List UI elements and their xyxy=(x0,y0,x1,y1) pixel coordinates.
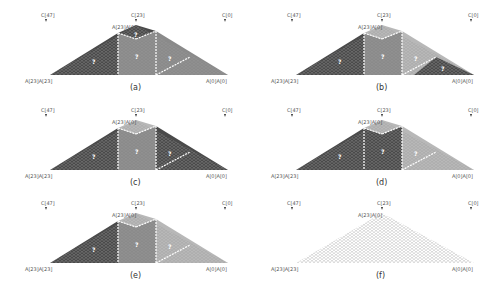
panel-f: C[47]C[23]C[0]A[23]A[0]A[23]A[23]A[0]A[0… xyxy=(246,188,492,282)
panel-c: C[47]C[23]C[0]A[23]A[0]A[23]A[23]A[0]A[0… xyxy=(0,95,246,189)
region-label-center: ? xyxy=(135,54,138,60)
panel-caption: (f) xyxy=(376,272,385,280)
label-apex: A[23]A[0] xyxy=(358,25,382,30)
arrow-down-icon xyxy=(381,19,383,22)
panel-caption: (a) xyxy=(130,84,141,92)
panel-caption: (c) xyxy=(130,179,141,187)
region-label-center: ? xyxy=(135,149,138,155)
arrow-down-icon xyxy=(45,207,47,210)
label-bottom-right: A[0]A[0] xyxy=(206,79,227,84)
label-apex: A[23]A[0] xyxy=(112,213,136,218)
label-top-right: C[0] xyxy=(468,201,479,206)
label-bottom-right: A[0]A[0] xyxy=(452,267,473,272)
arrow-down-icon xyxy=(470,114,472,117)
arrow-down-icon xyxy=(381,207,383,210)
panel-caption: (b) xyxy=(376,84,387,92)
label-bottom-right: A[0]A[0] xyxy=(206,174,227,179)
label-top-mid: C[23] xyxy=(377,201,391,206)
label-bottom-left: A[23]A[23] xyxy=(25,267,52,272)
arrow-down-icon xyxy=(135,19,137,22)
region-label-center: ? xyxy=(381,54,384,60)
label-apex: A[23]A[0] xyxy=(112,25,136,30)
label-bottom-left: A[23]A[23] xyxy=(25,79,52,84)
label-bottom-left: A[23]A[23] xyxy=(25,174,52,179)
arrow-down-icon xyxy=(135,114,137,117)
region-label-left: ? xyxy=(92,59,95,65)
label-top-left: C[47] xyxy=(41,201,55,206)
region-label-left: ? xyxy=(92,247,95,253)
region-label-center: ? xyxy=(381,149,384,155)
label-top-mid: C[23] xyxy=(131,13,145,18)
arrow-down-icon xyxy=(291,19,293,22)
label-bottom-right: A[0]A[0] xyxy=(452,79,473,84)
arrow-down-icon xyxy=(224,114,226,117)
arrow-down-icon xyxy=(470,19,472,22)
label-top-left: C[47] xyxy=(41,108,55,113)
label-bottom-left: A[23]A[23] xyxy=(271,174,298,179)
region-label-left: ? xyxy=(338,154,341,160)
arrow-down-icon xyxy=(470,207,472,210)
arrow-down-icon xyxy=(291,207,293,210)
region-label-right: ? xyxy=(414,56,417,62)
label-top-mid: C[23] xyxy=(377,108,391,113)
label-top-right: C[0] xyxy=(222,108,233,113)
region-label-right: ? xyxy=(414,151,417,157)
region-label-right: ? xyxy=(168,244,171,250)
label-top-right: C[0] xyxy=(222,13,233,18)
region-label-left: ? xyxy=(92,154,95,160)
panel-d: C[47]C[23]C[0]A[23]A[0]A[23]A[23]A[0]A[0… xyxy=(246,95,492,189)
label-apex: A[23]A[0] xyxy=(112,120,136,125)
panel-e: C[47]C[23]C[0]A[23]A[0]A[23]A[23]A[0]A[0… xyxy=(0,188,246,282)
arrow-down-icon xyxy=(291,114,293,117)
arrow-down-icon xyxy=(381,114,383,117)
label-top-right: C[0] xyxy=(222,201,233,206)
label-apex: A[23]A[0] xyxy=(358,213,382,218)
label-top-right: C[0] xyxy=(468,13,479,18)
label-top-left: C[47] xyxy=(287,13,301,18)
panel-a: C[47]C[23]C[0]A[23]A[0]A[23]A[23]A[0]A[0… xyxy=(0,0,246,94)
arrow-down-icon xyxy=(135,207,137,210)
label-top-left: C[47] xyxy=(287,201,301,206)
region-label-left: ? xyxy=(338,59,341,65)
region-label-bottom-right: ? xyxy=(441,66,444,72)
arrow-down-icon xyxy=(45,114,47,117)
label-top-left: C[47] xyxy=(287,108,301,113)
label-apex: A[23]A[0] xyxy=(358,120,382,125)
panel-caption: (d) xyxy=(376,179,387,187)
region-label-apex: ? xyxy=(134,32,137,38)
arrow-down-icon xyxy=(224,19,226,22)
label-top-mid: C[23] xyxy=(377,13,391,18)
region-label-right: ? xyxy=(168,56,171,62)
panel-b: C[47]C[23]C[0]A[23]A[0]A[23]A[23]A[0]A[0… xyxy=(246,0,492,94)
region-label-center: ? xyxy=(135,242,138,248)
arrow-down-icon xyxy=(224,207,226,210)
region-label-right: ? xyxy=(168,151,171,157)
arrow-down-icon xyxy=(45,19,47,22)
label-top-mid: C[23] xyxy=(131,201,145,206)
label-top-left: C[47] xyxy=(41,13,55,18)
label-bottom-left: A[23]A[23] xyxy=(271,267,298,272)
panel-caption: (e) xyxy=(130,272,141,280)
label-bottom-left: A[23]A[23] xyxy=(271,79,298,84)
label-top-right: C[0] xyxy=(468,108,479,113)
label-top-mid: C[23] xyxy=(131,108,145,113)
label-bottom-right: A[0]A[0] xyxy=(206,267,227,272)
label-bottom-right: A[0]A[0] xyxy=(452,174,473,179)
